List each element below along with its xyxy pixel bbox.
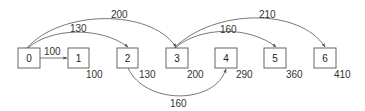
node-distance-4: 290 (236, 69, 253, 80)
edge-0-2: 130 (28, 23, 128, 48)
node-distance-5: 360 (286, 69, 303, 80)
node-1: 1 100 (68, 48, 103, 80)
node-distance-6: 410 (334, 69, 351, 80)
node-label-1: 1 (76, 53, 82, 64)
node-label-2: 2 (125, 53, 131, 64)
node-label-0: 0 (26, 53, 32, 64)
edge-weight-2-4: 160 (170, 98, 187, 109)
edge-0-1: 100 (40, 46, 67, 58)
node-label-4: 4 (223, 53, 229, 64)
node-0: 0 (18, 48, 40, 68)
node-4: 4 290 (215, 48, 253, 80)
edge-weight-3-6: 210 (259, 9, 276, 20)
edge-weight-0-3: 200 (111, 9, 128, 20)
node-label-5: 5 (272, 53, 278, 64)
node-2: 2 130 (117, 48, 156, 80)
graph-diagram: 100 130 200 160 160 210 0 1 100 2 130 3 … (0, 0, 365, 111)
node-3: 3 200 (166, 48, 204, 80)
node-distance-2: 130 (139, 69, 156, 80)
edge-0-3: 200 (27, 9, 176, 48)
node-distance-1: 100 (86, 69, 103, 80)
node-label-3: 3 (174, 53, 180, 64)
node-6: 6 410 (314, 48, 351, 80)
edge-3-5: 160 (175, 24, 276, 48)
node-distance-3: 200 (187, 69, 204, 80)
edge-weight-0-1: 100 (44, 46, 61, 57)
edge-weight-0-2: 130 (70, 23, 87, 34)
edge-weight-3-5: 160 (220, 24, 237, 35)
edge-3-6: 210 (174, 9, 325, 48)
node-5: 5 360 (264, 48, 303, 80)
node-label-6: 6 (322, 53, 328, 64)
